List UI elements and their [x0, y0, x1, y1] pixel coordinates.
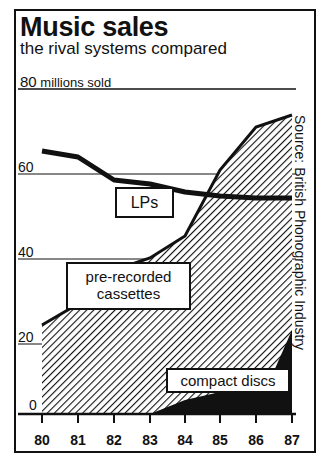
x-tick-87: 87	[277, 432, 307, 448]
y-tick-40: 40	[18, 245, 34, 259]
source-text: Source: British Phonographic Industry	[292, 115, 308, 350]
x-tick-86: 86	[241, 432, 271, 448]
x-tick-83: 83	[135, 432, 165, 448]
cassettes-label-line1: pre-recorded	[68, 268, 189, 285]
x-ticks	[42, 414, 292, 423]
x-tick-84: 84	[170, 432, 200, 448]
x-tick-80: 80	[27, 432, 57, 448]
y-tick-0: 0	[29, 398, 37, 412]
y-tick-20: 20	[18, 330, 34, 344]
cassettes-label-line2: cassettes	[68, 285, 189, 302]
y-tick-60: 60	[18, 160, 34, 174]
compact-discs-label: compact discs	[166, 368, 290, 393]
cassettes-label: pre-recorded cassettes	[66, 262, 191, 310]
lps-label: LPs	[115, 187, 174, 218]
x-tick-85: 85	[205, 432, 235, 448]
x-tick-81: 81	[63, 432, 93, 448]
x-tick-82: 82	[99, 432, 129, 448]
